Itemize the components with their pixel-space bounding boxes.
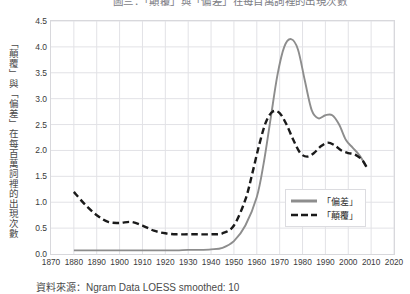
- y-tick-label: 3.0: [23, 94, 47, 104]
- legend-label-1: 「顛覆」: [322, 209, 358, 222]
- chart-legend: 「偏差」 「顛覆」: [285, 189, 366, 227]
- legend-item-dashed: 「顛覆」: [291, 208, 358, 222]
- y-tick-label: 4.5: [23, 16, 47, 26]
- legend-solid-line-icon: [291, 196, 317, 206]
- x-tick-label: 2020: [377, 257, 410, 267]
- x-axis-tick-labels: 1870188018901900191019201930194019501960…: [50, 257, 395, 271]
- legend-label-0: 「偏差」: [322, 195, 358, 208]
- chart-title: 圖三：「顛覆」與「偏差」在每百萬詞裡的出現次數: [60, 0, 400, 8]
- y-tick-label: 3.5: [23, 68, 47, 78]
- legend-dashed-line-icon: [291, 210, 317, 220]
- y-tick-label: 2.5: [23, 120, 47, 130]
- source-note: 資料來源：Ngram Data LOESS smoothed: 10: [36, 279, 239, 294]
- y-axis-label: 「顛覆」與「偏差」在每百萬詞裡的出現次數: [3, 24, 18, 254]
- legend-item-solid: 「偏差」: [291, 194, 358, 208]
- y-tick-label: 0.5: [23, 223, 47, 233]
- y-tick-label: 1.0: [23, 197, 47, 207]
- y-axis-tick-labels: 0.00.51.01.52.02.53.03.54.04.5: [20, 20, 47, 255]
- y-tick-label: 2.0: [23, 145, 47, 155]
- y-tick-label: 1.5: [23, 171, 47, 181]
- y-tick-label: 4.0: [23, 42, 47, 52]
